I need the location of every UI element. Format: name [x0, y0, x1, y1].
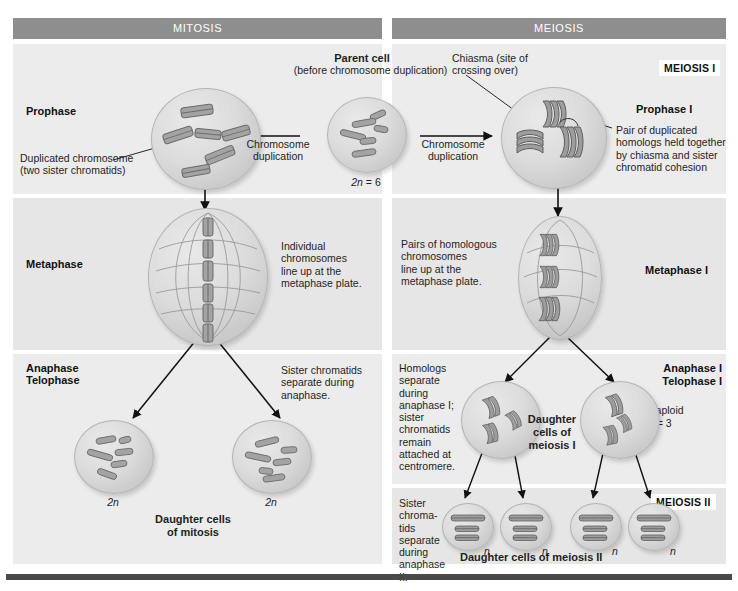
caption-daughter-cells-of-meiosis-i: Daughter cells of meiosis I [519, 413, 585, 452]
annotation-mitosis-anaphase: Sister chromatids separate during anapha… [281, 364, 381, 401]
cell-parent [327, 97, 407, 173]
parent-cell-title: Parent cell [297, 52, 427, 64]
annotation-meiosis-metaphase: Pairs of homologous chromosomes line up … [401, 238, 521, 287]
caption-daughter-cells-of-mitosis: Daughter cells of mitosis [131, 513, 255, 539]
bottom-rule [6, 574, 732, 580]
label-chromosome-duplication-left: Chromosome duplication [238, 138, 318, 163]
cell-mitosis-metaphase [148, 208, 268, 346]
caption-daughter-cells-of-meiosis-ii: Daughter cells of meiosis II [460, 551, 690, 563]
cell-meiosis-ii-daughter-1 [442, 503, 494, 551]
cell-mitosis-daughter-right [232, 420, 312, 494]
stage-label-prophase: Prophase [26, 105, 76, 117]
label-chromosome-duplication-right: Chromosome duplication [413, 138, 493, 163]
section-label-meiosis-i: MEIOSIS I [659, 60, 720, 76]
cell-meiosis-daughter-i-right [580, 381, 660, 459]
cell-meiosis-prophase-i [501, 87, 607, 189]
annotation-chiasma: Chiasma (site of crossing over) [452, 52, 562, 77]
stage-label-prophase-i: Prophase I [636, 103, 692, 115]
cell-meiosis-ii-daughter-4 [628, 503, 680, 551]
annotation-homolog-pair: Pair of duplicated homologs held togethe… [616, 124, 736, 173]
cell-meiosis-ii-daughter-3 [570, 503, 622, 551]
annotation-mitosis-metaphase: Individual chromosomes line up at the me… [281, 240, 381, 289]
ploidy-mitosis-daughter-right: 2n [251, 496, 291, 508]
parent-cell-subtitle: (before chromosome duplication) [283, 64, 458, 76]
figure-canvas: MITOSIS MEIOSIS [0, 0, 738, 591]
stage-label-metaphase-i: Metaphase I [645, 264, 708, 276]
ploidy-mitosis-daughter-left: 2n [93, 496, 133, 508]
cell-meiosis-metaphase-i [518, 216, 602, 340]
cell-meiosis-ii-daughter-2 [500, 503, 552, 551]
cell-mitosis-daughter-left [74, 420, 154, 494]
annotation-duplicated-chromosome: Duplicated chromosome (two sister chroma… [20, 152, 150, 177]
parent-cell-ploidy: 2n = 6 [326, 176, 406, 188]
stage-label-anaphase-telophase: Anaphase Telophase [26, 362, 80, 386]
annotation-meiosis-anaphase: Homologs separate during anaphase I; sis… [399, 362, 463, 473]
stage-label-metaphase: Metaphase [26, 258, 83, 270]
